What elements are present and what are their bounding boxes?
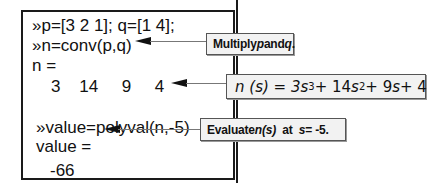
poly-lhs: n (s) = 3 [235, 78, 300, 96]
console-line-conv: »n=conv(p,q) [32, 37, 132, 55]
console-line-value-result: -66 [50, 162, 75, 180]
poly-var: s [392, 78, 400, 96]
callout-evaluate: Evaluate n(s) at s = -5. [200, 118, 346, 141]
leader-line [186, 83, 226, 84]
console-line-n-result: 3 14 9 4 [32, 78, 164, 96]
arrowhead-icon [135, 37, 151, 45]
console-line-n-label: n = [32, 57, 56, 75]
callout-text: p [257, 37, 264, 51]
poly-term: + 9 [365, 78, 392, 96]
poly-var: s [300, 78, 308, 96]
leader-line [118, 129, 200, 130]
poly-var: s [351, 78, 359, 96]
callout-text: q [285, 37, 292, 51]
callout-text: and [264, 37, 285, 51]
callout-text: Multiply [213, 37, 257, 51]
callout-text: = -5. [305, 123, 328, 137]
leader-line [150, 41, 206, 42]
callout-multiply: Multiply p and q. [206, 33, 294, 55]
callout-text: . [292, 37, 295, 51]
poly-term: + 4 [400, 78, 427, 96]
callout-polynomial: n (s) = 3s3 + 14 s2 + 9 s + 4 [226, 74, 426, 99]
callout-text: n(s) [255, 123, 276, 137]
poly-term: + 14 [315, 78, 351, 96]
callout-text: at [276, 123, 299, 137]
callout-text: Evaluate [207, 123, 255, 137]
arrowhead-icon [171, 79, 187, 87]
console-line-value-label: value = [36, 138, 91, 156]
console-line-define-pq: »p=[3 2 1]; q=[1 4]; [32, 17, 175, 35]
